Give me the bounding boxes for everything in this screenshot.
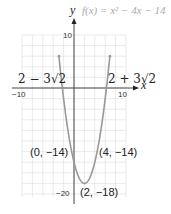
plot-area [0,0,171,214]
point-right-label: (4, −14) [99,146,137,158]
tick-y-10: 10 [63,31,72,40]
root-right-label: 2 + 3√2 [108,72,156,86]
point-left-label: (0, −14) [30,146,68,158]
y-axis-label: y [70,3,75,18]
root-left-label: 2 − 3√2 [18,72,66,86]
tick-y-neg20: −20 [56,189,70,198]
vertex-label: (2, −18) [80,186,118,198]
tick-x-10: 10 [118,90,127,99]
tick-x-neg10: −10 [12,90,26,99]
axes [12,18,139,204]
function-label: f(x) = x² − 4x − 14 [82,4,166,16]
